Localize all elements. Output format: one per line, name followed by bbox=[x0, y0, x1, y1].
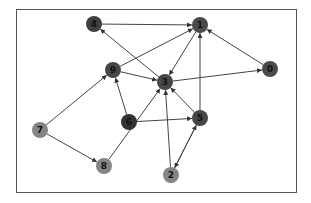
graph-node-0: 0 bbox=[262, 61, 278, 77]
graph-node-5: 5 bbox=[192, 110, 208, 126]
edge-9-to-3 bbox=[121, 72, 157, 80]
edge-6-to-9 bbox=[115, 78, 126, 115]
edge-5-to-3 bbox=[171, 88, 195, 113]
edge-2-to-3 bbox=[166, 90, 171, 167]
edge-3-to-0 bbox=[173, 70, 262, 81]
edge-0-to-1 bbox=[207, 29, 263, 64]
graph-node-2: 2 bbox=[163, 167, 179, 183]
node-label: 8 bbox=[101, 161, 107, 171]
graph-node-7: 7 bbox=[32, 122, 48, 138]
graph-node-1: 1 bbox=[192, 17, 208, 33]
node-label: 3 bbox=[162, 77, 168, 87]
edge-5-to-2 bbox=[175, 125, 197, 168]
edge-layer bbox=[46, 24, 263, 168]
node-label: 0 bbox=[267, 64, 273, 74]
graph-node-4: 4 bbox=[86, 16, 102, 32]
plot-frame bbox=[17, 10, 297, 193]
edge-7-to-8 bbox=[47, 134, 97, 162]
node-layer: 0123456789 bbox=[32, 16, 278, 183]
node-label: 5 bbox=[197, 113, 203, 123]
node-label: 6 bbox=[126, 117, 132, 127]
node-label: 4 bbox=[91, 19, 97, 29]
edge-4-to-1 bbox=[102, 24, 192, 25]
node-label: 1 bbox=[197, 20, 203, 30]
graph-node-3: 3 bbox=[157, 74, 173, 90]
graph-node-8: 8 bbox=[96, 158, 112, 174]
node-label: 7 bbox=[37, 125, 43, 135]
edge-6-to-5 bbox=[137, 118, 192, 121]
graph-canvas: 0123456789 bbox=[0, 0, 311, 203]
edge-9-to-1 bbox=[120, 29, 193, 67]
node-label: 9 bbox=[110, 65, 116, 75]
graph-node-9: 9 bbox=[105, 62, 121, 78]
graph-node-6: 6 bbox=[121, 114, 137, 130]
node-label: 2 bbox=[168, 170, 174, 180]
edge-7-to-9 bbox=[46, 75, 107, 125]
